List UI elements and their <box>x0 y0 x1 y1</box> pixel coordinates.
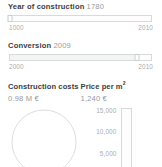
stat-construction-costs: Construction costs 0.98 M € <box>8 82 81 104</box>
field-conversion-value: 2009 <box>53 41 71 50</box>
conversion-axis-max: 2010 <box>138 62 153 71</box>
stat-price-per-sqm: Price per m2 1,240 € <box>81 82 154 104</box>
field-year-of-construction-value: 1780 <box>87 2 105 11</box>
stat-price-per-sqm-title-text: Price per m <box>81 82 123 91</box>
stat-price-per-sqm-title-superscript: 2 <box>123 80 126 86</box>
year-of-construction-slider[interactable] <box>9 15 152 22</box>
donut-chart-icon <box>11 109 77 167</box>
stat-construction-costs-value: 0.98 M € <box>8 93 81 104</box>
field-year-of-construction-label: Year of construction <box>8 2 84 11</box>
field-year-of-construction: Year of construction 1780 1000 2010 <box>9 2 153 32</box>
price-per-sqm-axis-tick: 15,000 <box>96 107 116 114</box>
field-conversion-header: Conversion 2009 <box>8 41 153 51</box>
stat-price-per-sqm-value: 1,240 € <box>81 93 154 104</box>
stats-row: Construction costs 0.98 M € Price per m2… <box>8 82 153 104</box>
year-of-construction-axis-min: 1000 <box>9 23 24 32</box>
conversion-axis: 2000 2010 <box>9 62 153 71</box>
price-per-sqm-axis-tick: 5,000 <box>100 150 117 157</box>
charts-row: 15,00010,0005,0000 <box>8 107 153 167</box>
stat-price-per-sqm-title: Price per m2 <box>81 82 154 92</box>
conversion-slider-row <box>9 54 153 61</box>
conversion-slider[interactable] <box>9 54 152 61</box>
construction-costs-chart <box>8 107 81 167</box>
field-conversion: Conversion 2009 2000 2010 <box>9 41 153 71</box>
field-conversion-label: Conversion <box>8 41 51 50</box>
conversion-axis-min: 2000 <box>9 62 24 71</box>
price-per-sqm-axis: 15,00010,0005,0000 <box>81 107 121 167</box>
property-details-panel: Year of construction 1780 1000 2010 Conv… <box>0 2 162 167</box>
year-of-construction-axis-max: 2010 <box>138 23 153 32</box>
conversion-slider-fill <box>10 55 137 60</box>
stat-construction-costs-title: Construction costs <box>8 82 81 92</box>
year-of-construction-axis: 1000 2010 <box>9 23 153 32</box>
conversion-slider-handle[interactable] <box>134 54 139 61</box>
price-per-sqm-chart: 15,00010,0005,0000 <box>81 107 154 167</box>
year-of-construction-slider-handle[interactable] <box>8 15 13 22</box>
year-of-construction-slider-row <box>9 15 153 22</box>
price-per-sqm-axis-tick: 10,000 <box>96 128 116 135</box>
field-year-of-construction-header: Year of construction 1780 <box>8 2 153 12</box>
price-per-sqm-bar <box>121 108 132 167</box>
